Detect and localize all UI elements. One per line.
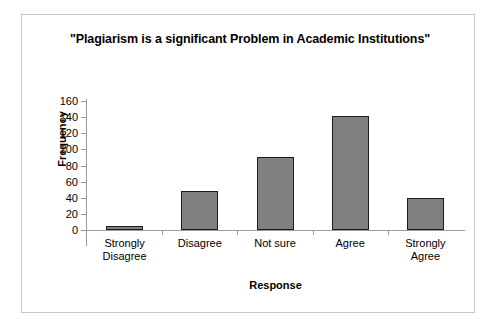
- chart-frame: "Plagiarism is a significant Problem in …: [21, 14, 475, 313]
- y-axis-tick-label: 0: [34, 225, 78, 236]
- x-axis-category-label: StronglyDisagree: [87, 237, 162, 263]
- bar: [257, 157, 294, 230]
- y-axis-tick-label: 160: [34, 96, 78, 107]
- bar: [332, 116, 369, 230]
- x-axis-tick: [237, 230, 238, 235]
- x-axis-category-label-line: Agree: [313, 237, 388, 250]
- y-axis-tick-label: 60: [34, 177, 78, 188]
- y-axis-tick-label: 40: [34, 193, 78, 204]
- x-axis-category-label: Agree: [313, 237, 388, 250]
- y-axis-tick-label: 100: [34, 144, 78, 155]
- x-axis-tick: [313, 230, 314, 235]
- y-axis-tick-label: 20: [34, 209, 78, 220]
- x-axis-line: [86, 230, 465, 231]
- plot-area: [87, 101, 463, 230]
- y-axis-tick: [81, 230, 87, 231]
- bar: [106, 226, 143, 230]
- x-axis-category-label: Not sure: [237, 237, 312, 250]
- y-axis-tick-label: 120: [34, 128, 78, 139]
- x-axis-category-label: StronglyAgree: [388, 237, 463, 263]
- chart-title: "Plagiarism is a significant Problem in …: [62, 31, 438, 48]
- x-axis-category-label-line: Disagree: [87, 250, 162, 263]
- y-axis-tick-label: 140: [34, 112, 78, 123]
- x-axis-tick: [388, 230, 389, 235]
- x-axis-title: Response: [86, 279, 465, 291]
- x-axis-category-label: Disagree: [162, 237, 237, 250]
- x-axis-category-label-line: Not sure: [237, 237, 312, 250]
- x-axis-category-label-line: Disagree: [162, 237, 237, 250]
- x-axis-category-label-line: Strongly: [388, 237, 463, 250]
- x-axis-tick: [162, 230, 163, 235]
- bar: [407, 198, 444, 230]
- bar: [181, 191, 218, 230]
- x-axis-category-label-line: Agree: [388, 250, 463, 263]
- x-axis-category-label-line: Strongly: [87, 237, 162, 250]
- y-axis-tick-label: 80: [34, 161, 78, 172]
